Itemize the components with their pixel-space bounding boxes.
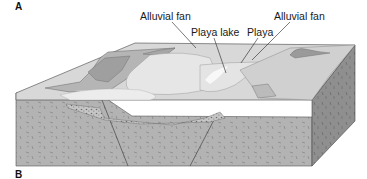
callout-alluvial-fan-left: Alluvial fan [140,10,191,22]
panel-label-b: B [15,169,22,179]
basin-block-diagram [0,0,367,179]
callout-playa-lake: Playa lake [191,26,239,38]
callout-alluvial-fan-right: Alluvial fan [274,10,325,22]
callout-playa: Playa [247,26,273,38]
top-surface [16,43,355,100]
front-face [16,93,312,166]
